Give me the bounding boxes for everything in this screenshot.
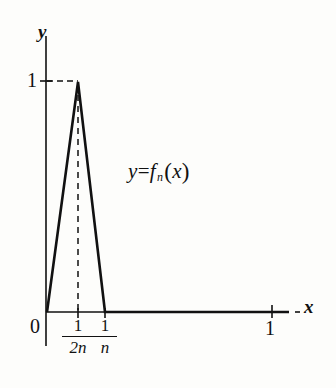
function-curve — [47, 82, 289, 312]
x-tick-label-one-over-two-n: 1 2n — [62, 317, 94, 357]
figure-container: y x 0 1 1 1 2n 1 n y=fn(x) — [0, 0, 336, 388]
equation-close-paren: ) — [182, 159, 190, 184]
fraction-bar — [62, 336, 94, 338]
equation-subscript: n — [156, 170, 164, 184]
origin-label: 0 — [30, 316, 40, 336]
y-tick-label-1: 1 — [27, 70, 37, 90]
fraction-numerator: 1 — [93, 317, 117, 336]
equation-function-name: f — [150, 159, 156, 183]
fraction-denominator: 2n — [62, 338, 94, 357]
function-equation-label: y=fn(x) — [128, 160, 190, 183]
fraction-denominator: n — [93, 338, 117, 357]
equation-equals: = — [138, 159, 150, 183]
fraction-bar — [93, 336, 117, 338]
y-axis-label: y — [38, 22, 46, 41]
equation-open-paren: ( — [164, 159, 172, 184]
x-tick-label-one-over-n: 1 n — [93, 317, 117, 357]
x-tick-label-1: 1 — [265, 318, 275, 338]
fraction-numerator: 1 — [62, 317, 94, 336]
equation-lhs: y — [128, 159, 138, 183]
x-axis-label: x — [304, 297, 314, 316]
equation-argument: x — [172, 159, 182, 183]
plot-canvas — [0, 0, 336, 388]
